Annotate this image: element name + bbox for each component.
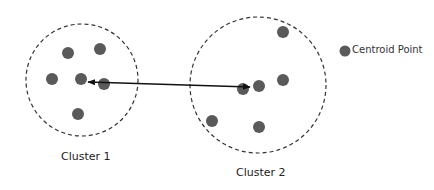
centroid-distance-arrow [88,82,250,87]
cluster-2-label: Cluster 2 [236,166,286,179]
data-point [72,108,84,120]
centroid-point [75,73,87,85]
legend-centroid-icon [340,46,351,57]
cluster-1-label: Cluster 1 [61,150,111,163]
data-point [277,26,289,38]
data-point [206,115,218,127]
centroid-point [253,80,265,92]
data-point [62,47,74,59]
data-point [277,74,289,86]
data-point [46,73,58,85]
data-point [253,121,265,133]
data-point [98,78,110,90]
legend-label: Centroid Point [352,44,423,55]
data-point [94,43,106,55]
data-point [237,83,249,95]
